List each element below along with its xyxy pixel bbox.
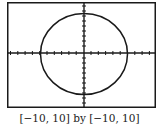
- calculator-graph-screen: [7, 2, 156, 108]
- window-caption: [−10, 10] by [−10, 10]: [0, 109, 159, 127]
- graph-plot: [7, 2, 156, 108]
- graph-frame: [8, 3, 156, 108]
